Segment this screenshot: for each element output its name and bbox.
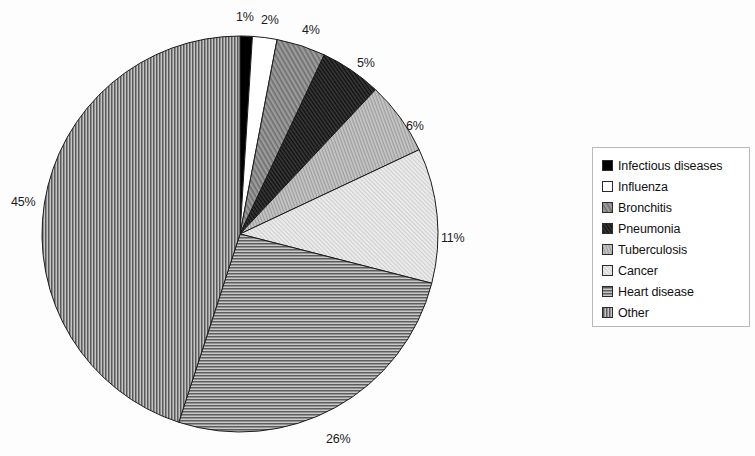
legend-item[interactable]: Pneumonia (602, 218, 749, 239)
legend-rows: Infectious diseasesInfluenzaBronchitisPn… (602, 155, 749, 323)
pie-percent-label: 45% (11, 195, 35, 209)
legend-item-label: Other (618, 306, 649, 320)
legend-item-label: Influenza (618, 180, 668, 194)
pie-chart-svg (0, 0, 480, 456)
legend-item[interactable]: Other (602, 302, 749, 323)
pie-percent-label: 6% (406, 119, 424, 133)
legend-item-label: Heart disease (618, 285, 694, 299)
legend-item-label: Pneumonia (618, 222, 680, 236)
legend-swatch-icon (602, 286, 613, 297)
pie-percent-label: 1% (236, 10, 254, 24)
pie-percent-label: 4% (302, 23, 320, 37)
legend-swatch-icon (602, 223, 613, 234)
pie-percent-label: 5% (357, 56, 375, 70)
chart-legend: Infectious diseasesInfluenzaBronchitisPn… (592, 147, 750, 327)
pie-percent-label: 26% (326, 432, 350, 446)
legend-swatch-icon (602, 265, 613, 276)
pie-percent-label: 2% (261, 13, 279, 27)
legend-item[interactable]: Infectious diseases (602, 155, 749, 176)
chart-root: 1%2%4%5%6%11%26%45% Infectious diseasesI… (0, 0, 755, 456)
legend-item-label: Infectious diseases (618, 159, 722, 173)
pie-chart-area: 1%2%4%5%6%11%26%45% (0, 0, 480, 456)
legend-swatch-icon (602, 244, 613, 255)
legend-item-label: Cancer (618, 264, 658, 278)
legend-item[interactable]: Tuberculosis (602, 239, 749, 260)
legend-swatch-icon (602, 181, 613, 192)
legend-item[interactable]: Influenza (602, 176, 749, 197)
legend-swatch-icon (602, 202, 613, 213)
pie-percent-label: 11% (441, 231, 465, 245)
legend-item[interactable]: Heart disease (602, 281, 749, 302)
legend-item-label: Tuberculosis (618, 243, 687, 257)
legend-swatch-icon (602, 160, 613, 171)
pie-slices-group (42, 36, 438, 432)
legend-swatch-icon (602, 307, 613, 318)
legend-item[interactable]: Cancer (602, 260, 749, 281)
legend-item[interactable]: Bronchitis (602, 197, 749, 218)
legend-item-label: Bronchitis (618, 201, 672, 215)
